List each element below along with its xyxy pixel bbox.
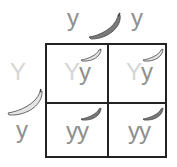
allele: y [141,58,152,85]
punnett-grid: Yy Yy yy yy [45,43,167,158]
allele: y [79,58,90,85]
allele: y [77,117,88,144]
dark-banana-icon [87,12,123,40]
cell-r0-c1: Yy [109,45,169,101]
cell-r0-c0: Yy [47,45,107,101]
light-banana-icon [6,88,44,116]
allele: y [128,117,139,144]
cell-r1-c1: yy [109,104,169,160]
allele: Y [64,58,79,85]
top-allele-2: y [131,6,143,30]
allele: y [66,117,77,144]
allele: y [139,117,150,144]
left-allele-1: Y [10,60,26,84]
allele: Y [126,58,141,85]
top-allele-1: y [67,6,79,30]
left-allele-2: y [16,118,28,142]
cell-r1-c0: yy [47,104,107,160]
